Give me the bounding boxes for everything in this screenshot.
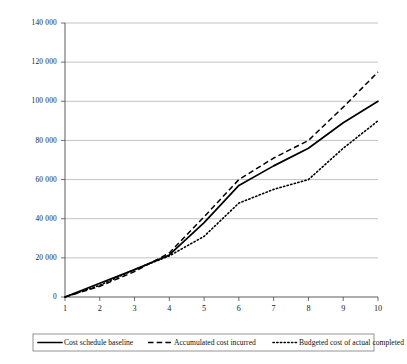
chart-container: 020 00040 00060 00080 000100 000120 0001… xyxy=(0,0,407,364)
x-tick-label: 9 xyxy=(341,304,345,313)
line-chart: 020 00040 00060 00080 000100 000120 0001… xyxy=(0,0,407,364)
series-line-solid xyxy=(65,101,378,297)
y-tick-label: 20 000 xyxy=(35,253,57,262)
x-tick-labels: 12345678910 xyxy=(63,304,382,313)
x-tick-label: 5 xyxy=(202,304,206,313)
x-tick-label: 3 xyxy=(133,304,137,313)
legend-label: Accumulated cost incurred xyxy=(174,338,256,347)
y-tick-label: 40 000 xyxy=(35,214,57,223)
legend-item: Accumulated cost incurred xyxy=(148,338,256,347)
x-tick-label: 1 xyxy=(63,304,67,313)
x-tick-label: 4 xyxy=(167,304,171,313)
x-tick-label: 10 xyxy=(374,304,382,313)
x-tick-label: 8 xyxy=(306,304,310,313)
y-tick-label: 0 xyxy=(53,292,57,301)
x-tick-label: 2 xyxy=(98,304,102,313)
x-tick-label: 7 xyxy=(272,304,276,313)
y-axis xyxy=(61,23,65,297)
gridlines xyxy=(65,23,378,258)
legend-label: Cost schedule baseline xyxy=(64,338,134,347)
legend-item: Cost schedule baseline xyxy=(38,338,134,347)
y-tick-label: 80 000 xyxy=(35,136,57,145)
series-lines xyxy=(65,72,378,297)
legend-label: Budgeted cost of actual completed xyxy=(299,338,404,347)
x-tick-label: 6 xyxy=(237,304,241,313)
y-tick-label: 120 000 xyxy=(32,57,58,66)
series-line-dotted xyxy=(65,121,378,297)
x-axis xyxy=(65,297,378,301)
y-tick-label: 60 000 xyxy=(35,175,57,184)
y-tick-label: 100 000 xyxy=(32,96,58,105)
chart-legend: Cost schedule baselineAccumulated cost i… xyxy=(33,334,404,351)
series-line-dashed xyxy=(65,72,378,297)
legend-item: Budgeted cost of actual completed xyxy=(273,338,404,347)
y-tick-labels: 020 00040 00060 00080 000100 000120 0001… xyxy=(32,18,58,301)
y-tick-label: 140 000 xyxy=(32,18,58,27)
